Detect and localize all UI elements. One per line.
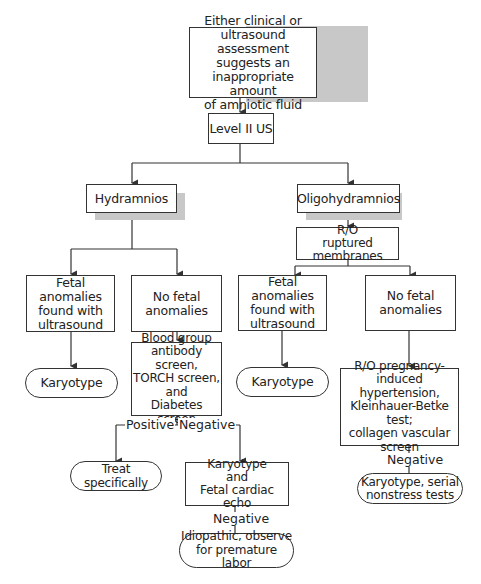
- ro-pih-node: R/O pregnancy- induced hypertension, Kle…: [340, 368, 459, 446]
- oligohydramnios-fetal-anomalies-node: Fetal anomalies found with ultrasound: [238, 275, 327, 331]
- hydramnios-no-fetal-anomalies-node: No fetal anomalies: [131, 275, 222, 332]
- idiopathic-text: Idiopathic, observe for premature labor: [180, 530, 293, 571]
- oligohydramnios-no-fetal-anomalies-node: No fetal anomalies: [365, 275, 456, 331]
- level-ii-us-text: Level II US: [209, 122, 272, 136]
- negative-label-echo: Negative: [212, 512, 270, 526]
- karyotype-echo-text: Karyotype and Fetal cardiac echo: [186, 458, 288, 510]
- ro-ruptured-membranes-node: R/O ruptured membranes: [296, 227, 399, 260]
- oligohydramnios-karyotype-text: Karyotype: [252, 375, 314, 389]
- ro-ruptured-membranes-text: R/O ruptured membranes: [297, 224, 398, 263]
- hydramnios-text: Hydramnios: [95, 192, 168, 206]
- karyotype-nonstress-text: Karyotype, serial nonstress tests: [361, 476, 459, 502]
- hydramnios-node: Hydramnios: [86, 184, 177, 213]
- hydramnios-karyotype-node: Karyotype: [25, 368, 118, 398]
- hydramnios-fetal-anomalies-node: Fetal anomalies found with ultrasound: [26, 275, 115, 332]
- oligohydramnios-text: Oligohydramnios: [297, 192, 400, 206]
- hydramnios-fetal-anomalies-text: Fetal anomalies found with ultrasound: [27, 276, 114, 332]
- negative-label-pih: Negative: [386, 453, 444, 467]
- oligohydramnios-karyotype-node: Karyotype: [236, 367, 329, 397]
- negative-label-screens: Negative: [178, 418, 236, 432]
- karyotype-echo-node: Karyotype and Fetal cardiac echo: [185, 462, 289, 506]
- hydramnios-karyotype-text: Karyotype: [41, 376, 103, 390]
- positive-label: Positive: [125, 418, 175, 432]
- screens-node: Blood group antibody screen, TORCH scree…: [131, 342, 222, 416]
- treat-specifically-node: Treat specifically: [70, 461, 162, 491]
- root-node: Either clinical or ultrasound assessment…: [189, 27, 317, 98]
- root-text: Either clinical or ultrasound assessment…: [190, 14, 316, 112]
- treat-specifically-text: Treat specifically: [71, 462, 161, 490]
- oligohydramnios-node: Oligohydramnios: [297, 184, 400, 213]
- oligohydramnios-no-fetal-anomalies-text: No fetal anomalies: [379, 289, 441, 317]
- screens-text: Blood group antibody screen, TORCH scree…: [132, 332, 221, 427]
- level-ii-us-node: Level II US: [208, 113, 274, 144]
- ro-pih-text: R/O pregnancy- induced hypertension, Kle…: [341, 360, 458, 455]
- hydramnios-no-fetal-anomalies-text: No fetal anomalies: [145, 290, 207, 318]
- idiopathic-node: Idiopathic, observe for premature labor: [179, 533, 294, 568]
- oligohydramnios-fetal-anomalies-text: Fetal anomalies found with ultrasound: [239, 275, 326, 331]
- karyotype-nonstress-node: Karyotype, serial nonstress tests: [357, 473, 463, 504]
